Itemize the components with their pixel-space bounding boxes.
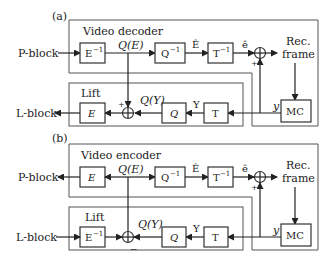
signal-qy-a: Q(Y): [140, 94, 165, 107]
svg-text:−1: −1: [93, 46, 103, 54]
svg-text:−1: −1: [170, 46, 180, 54]
signal-y-lower-a: y: [272, 100, 280, 113]
svg-text:+: +: [251, 59, 258, 68]
svg-text:−1: −1: [220, 46, 230, 54]
signal-y-lower-b: y: [272, 224, 280, 237]
panel-a-label: (a): [52, 10, 67, 23]
svg-text:Q: Q: [161, 48, 169, 59]
video-encoder-title: Video encoder: [80, 149, 162, 162]
svg-text:MC: MC: [286, 230, 304, 241]
svg-text:−: −: [130, 244, 138, 254]
svg-text:E: E: [85, 232, 92, 243]
sum-node-a2: [123, 108, 134, 119]
svg-text:E: E: [85, 48, 92, 59]
svg-text:Q: Q: [170, 232, 178, 243]
lift-title-b: Lift: [85, 211, 105, 224]
video-decoder-title: Video decoder: [82, 25, 164, 38]
panel-a: (a) Video decoder Lift P-block E −1 Q(E)…: [16, 10, 318, 126]
svg-text:+: +: [251, 183, 258, 192]
l-block-output-label: L-block: [16, 107, 57, 120]
svg-text:E: E: [87, 108, 96, 119]
sum-node-b1: [255, 172, 266, 183]
l-block-input-label: L-block: [16, 231, 57, 244]
svg-text:MC: MC: [286, 106, 304, 117]
svg-text:−1: −1: [93, 230, 103, 238]
svg-text:−1: −1: [220, 170, 230, 178]
svg-text:T: T: [213, 48, 220, 59]
diagram-canvas: (a) Video decoder Lift P-block E −1 Q(E)…: [0, 0, 335, 262]
panel-b-label: (b): [52, 132, 68, 145]
svg-text:T: T: [212, 108, 219, 119]
p-block-output-label: P-block: [18, 171, 59, 184]
signal-e-small-a: ê: [242, 39, 248, 50]
signal-y-upper-b: Y: [192, 223, 200, 234]
p-block-input-label: P-block: [18, 47, 59, 60]
sum-node-b2: [123, 232, 134, 243]
svg-text:frame: frame: [282, 48, 315, 61]
sum-node-a1: [255, 48, 266, 59]
rec-frame-label-b: Rec.: [286, 159, 310, 172]
svg-text:Q: Q: [161, 172, 169, 183]
svg-text:−1: −1: [170, 170, 180, 178]
panel-b: (b) Video encoder Lift P-block E Q(E) Q …: [16, 132, 318, 254]
svg-text:E: E: [87, 172, 96, 183]
signal-e-small-b: ê: [242, 163, 248, 174]
signal-qy-b: Q(Y): [138, 218, 163, 231]
signal-ehat-b: Ê: [192, 163, 199, 174]
lift-title-a: Lift: [81, 87, 101, 100]
svg-text:T: T: [212, 232, 219, 243]
signal-qe-b: Q(E): [118, 163, 144, 176]
svg-text:Q: Q: [170, 108, 178, 119]
signal-ehat-a: Ê: [192, 39, 199, 50]
svg-text:frame: frame: [282, 172, 315, 185]
signal-qe-a: Q(E): [118, 39, 144, 52]
signal-y-upper-a: Y: [192, 99, 200, 110]
rec-frame-label-a: Rec.: [286, 35, 310, 48]
svg-text:T: T: [213, 172, 220, 183]
svg-text:+: +: [118, 100, 125, 109]
